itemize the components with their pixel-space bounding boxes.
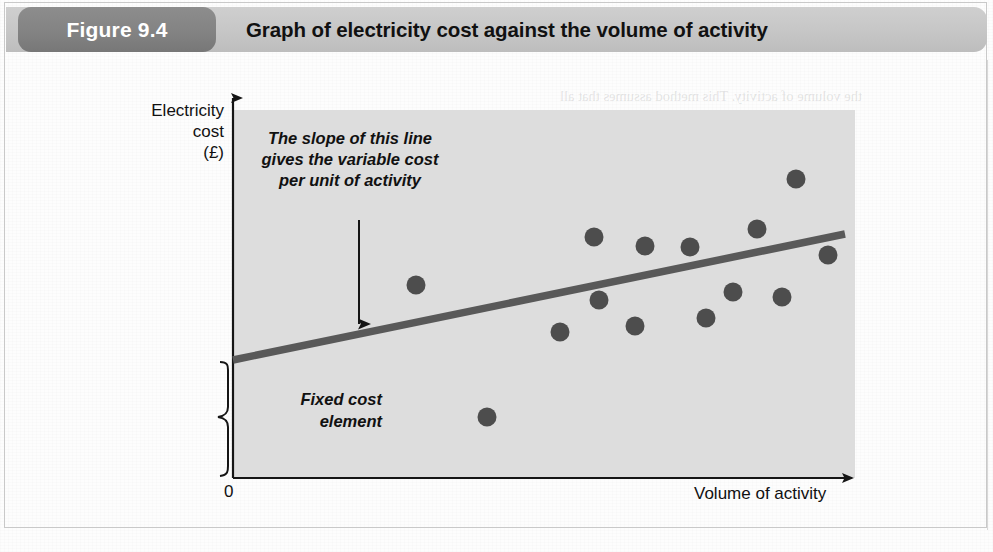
y-axis-label-line-1: Electricity	[118, 100, 224, 121]
page-edge-line	[987, 60, 988, 530]
y-axis-label: Electricity cost (£)	[118, 100, 224, 163]
data-points	[407, 170, 838, 427]
fixed-cost-annotation-text: Fixed cost element	[234, 388, 382, 432]
fixed-cost-annotation-line-1: Fixed cost	[234, 388, 382, 410]
y-axis-label-line-2: cost	[118, 121, 224, 142]
data-point	[407, 276, 426, 295]
fixed-cost-brace	[218, 362, 228, 476]
data-point	[787, 170, 806, 189]
data-point	[585, 228, 604, 247]
slope-annotation-line-2: gives the variable cost	[234, 149, 466, 170]
figure-body: Electricity cost (£) The slope of this l…	[6, 52, 987, 528]
trend-line	[233, 234, 845, 360]
data-point	[697, 309, 716, 328]
slope-annotation-line-3: per unit of activity	[234, 170, 466, 191]
data-point	[626, 317, 645, 336]
data-point	[636, 237, 655, 256]
figure-title: Graph of electricity cost against the vo…	[246, 7, 768, 52]
fixed-cost-annotation-line-2: element	[234, 410, 382, 432]
figure-number-label: Figure 9.4	[66, 18, 167, 42]
x-axis-label: Volume of activity	[694, 484, 826, 504]
slope-annotation-text: The slope of this line gives the variabl…	[234, 128, 466, 191]
slope-annotation-line-1: The slope of this line	[234, 128, 466, 149]
data-point	[478, 408, 497, 427]
data-point	[551, 323, 570, 342]
figure-number-badge: Figure 9.4	[18, 7, 216, 52]
data-point	[590, 291, 609, 310]
data-point	[773, 288, 792, 307]
y-axis-label-line-3: (£)	[118, 142, 224, 163]
figure-page: the volume of activity. This method assu…	[0, 0, 993, 552]
origin-label: 0	[224, 482, 233, 502]
data-point	[724, 283, 743, 302]
data-point	[681, 238, 700, 257]
data-point	[819, 246, 838, 265]
data-point	[748, 220, 767, 239]
